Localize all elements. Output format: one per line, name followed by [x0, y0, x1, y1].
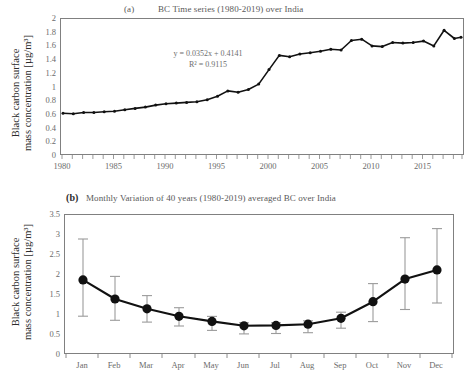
panel-a-y-axis-title-line1: Black carbon surface [10, 18, 22, 168]
panel-a-ytick-0: 0 [52, 150, 56, 160]
panel-b-xtick-dec: Dec [429, 360, 443, 370]
panel-a-equation-line2: R² = 0.9115 [153, 60, 263, 71]
panel-b-xtick-oct: Oct [366, 360, 378, 370]
panel-a-xtick-1985: 1985 [105, 161, 122, 171]
panel-a-xtick-1980: 1980 [54, 161, 71, 171]
panel-b-xtick-jan: Jan [76, 360, 87, 370]
panel-b-xtick-may: May [203, 360, 219, 370]
panel-a-y-ticklabels: 2 1.8 1.6 1.4 1.2 1 0.8 0.6 0.4 0.2 0 [30, 18, 56, 155]
panel-a-ytick-9: 1.8 [45, 27, 56, 37]
panel-a-markers [62, 29, 463, 116]
panel-b-xtickmarks [64, 354, 454, 359]
panel-a-xtickmarks [60, 155, 464, 160]
panel-b-xtick-aug: Aug [300, 360, 315, 370]
panel-b-xtick-sep: Sep [334, 360, 347, 370]
panel-a-title: BC Time series (1980-2019) over India [158, 4, 303, 14]
panel-a-trend-line [63, 30, 461, 114]
panel-a-ytick-4: 0.8 [45, 95, 56, 105]
panel-a-x-ticklabels: 1980 1985 1990 1995 2000 2005 2010 2015 [60, 161, 464, 175]
panel-a-series-svg [61, 19, 463, 154]
chart-panel-b: (b) Monthly Variation of 40 years (1980-… [0, 192, 466, 387]
panel-a-ytick-6: 1.2 [45, 68, 56, 78]
panel-b-ytick-2: 1 [56, 309, 60, 319]
panel-b-series-svg [65, 215, 453, 353]
panel-a-letter: (a) [124, 4, 134, 14]
panel-b-xtick-apr: Apr [171, 360, 184, 370]
panel-a-equation-line1: y = 0.0352x + 0.4141 [153, 49, 263, 60]
panel-b-plot-area [64, 214, 454, 354]
figure-container: (a) BC Time series (1980-2019) over Indi… [0, 0, 466, 387]
panel-b-ytick-4: 2 [56, 269, 60, 279]
panel-a-ytick-1: 0.2 [45, 136, 56, 146]
panel-b-letter: (b) [66, 192, 79, 203]
panel-b-x-ticklabels: Jan Feb Mar Apr May Jun Jul Aug Sep Oct … [64, 360, 454, 374]
panel-b-y-axis-title-line2: mass concentration [µg/m³] [22, 202, 34, 362]
panel-b-y-ticklabels: 3.5 3 2.5 2 1.5 1 0.5 0 [34, 214, 60, 354]
panel-b-y-axis-title-line1: Black carbon surface [10, 202, 22, 362]
panel-a-ytick-2: 0.4 [45, 123, 56, 133]
panel-a-xtick-2005: 2005 [311, 161, 328, 171]
panel-a-ytick-3: 0.6 [45, 109, 56, 119]
panel-a-xtick-1995: 1995 [208, 161, 225, 171]
chart-panel-a: (a) BC Time series (1980-2019) over Indi… [0, 0, 466, 192]
panel-b-trend-line [83, 270, 437, 326]
panel-b-ytick-1: 0.5 [49, 329, 60, 339]
panel-b-title: Monthly Variation of 40 years (1980-2019… [86, 193, 336, 203]
panel-b-ytick-3: 1.5 [49, 289, 60, 299]
panel-b-xtick-jul: Jul [270, 360, 280, 370]
panel-a-xtick-1990: 1990 [157, 161, 174, 171]
panel-b-y-axis-title: Black carbon surface mass concentration … [10, 202, 34, 362]
panel-b-ytick-6: 3 [56, 229, 60, 239]
panel-b-error-bars [78, 229, 442, 334]
panel-b-xtick-nov: Nov [397, 360, 412, 370]
panel-b-xtick-jun: Jun [237, 360, 249, 370]
panel-a-plot-area: y = 0.0352x + 0.4141 R² = 0.9115 [60, 18, 464, 155]
panel-a-equation: y = 0.0352x + 0.4141 R² = 0.9115 [153, 49, 263, 71]
panel-b-xtick-feb: Feb [108, 360, 121, 370]
panel-a-xtick-2000: 2000 [260, 161, 277, 171]
panel-a-ytick-7: 1.4 [45, 54, 56, 64]
panel-b-xtick-mar: Mar [139, 360, 153, 370]
panel-a-ytick-5: 1 [52, 82, 56, 92]
panel-b-ytick-5: 2.5 [49, 249, 60, 259]
panel-b-ytick-0: 0 [56, 349, 60, 359]
panel-a-xtick-2010: 2010 [363, 161, 380, 171]
panel-a-xtick-2015: 2015 [414, 161, 431, 171]
panel-a-ytick-10: 2 [52, 13, 56, 23]
panel-b-markers [78, 265, 441, 330]
panel-a-ytick-8: 1.6 [45, 40, 56, 50]
panel-b-ytick-7: 3.5 [49, 209, 60, 219]
